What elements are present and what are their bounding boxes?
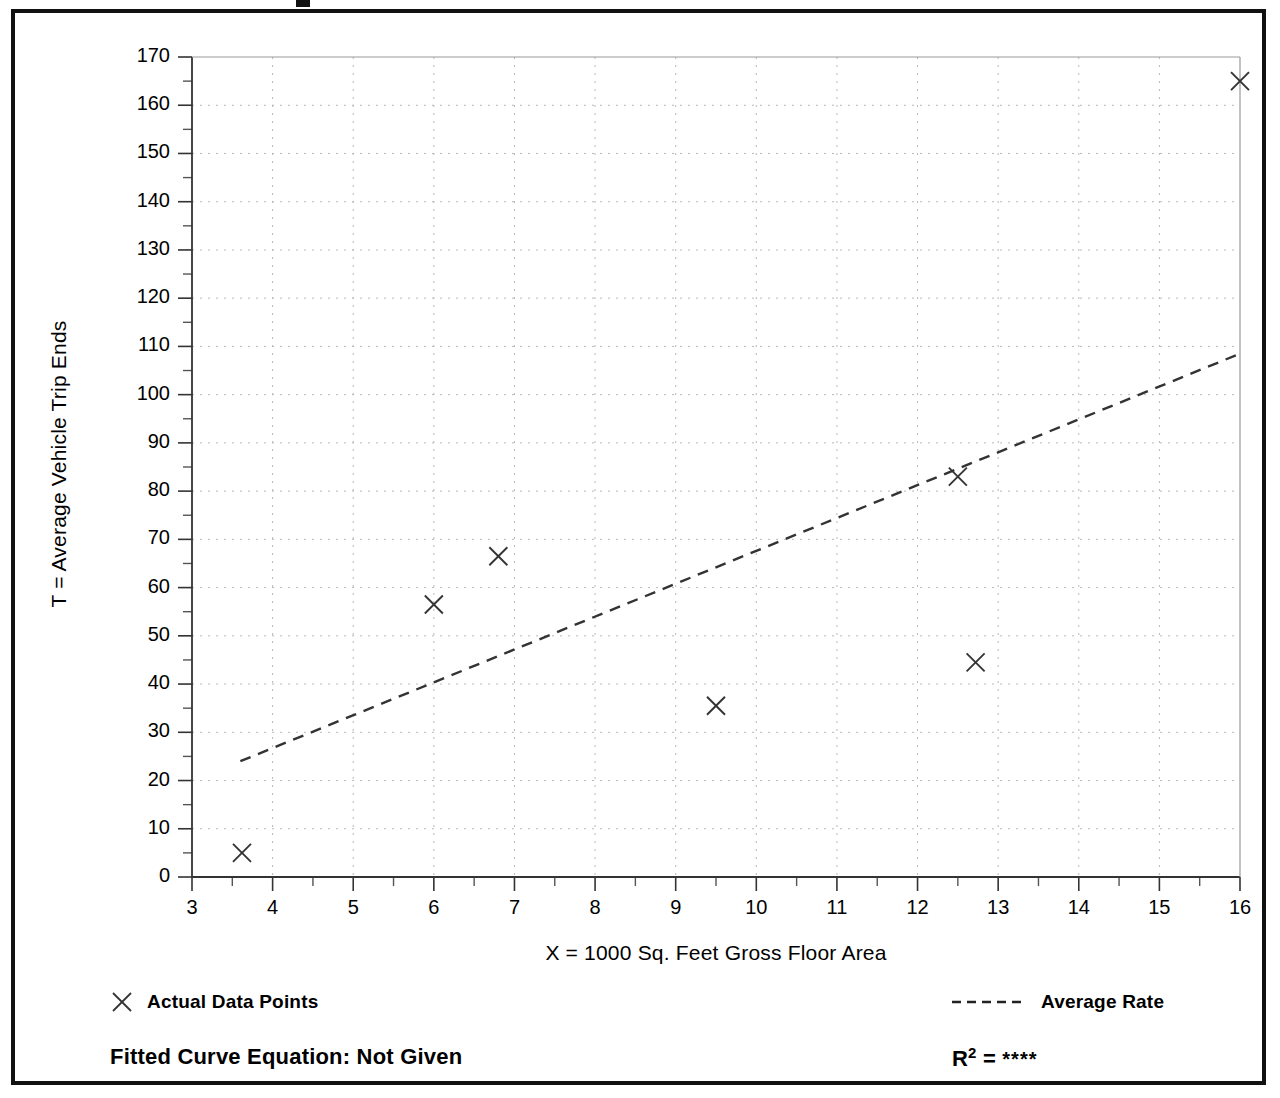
x-tick-label: 7 xyxy=(492,896,536,919)
y-tick-label: 30 xyxy=(110,719,170,742)
gridlines xyxy=(192,57,1240,877)
x-tick-label: 5 xyxy=(331,896,375,919)
major-ticks xyxy=(178,57,1240,891)
y-tick-label: 130 xyxy=(110,237,170,260)
legend-label-average-rate: Average Rate xyxy=(1041,991,1164,1013)
average-rate-trend-line xyxy=(240,354,1240,762)
x-tick-label: 9 xyxy=(654,896,698,919)
y-tick-label: 120 xyxy=(110,285,170,308)
r-squared-equals: = xyxy=(977,1046,1003,1071)
data-point-markers xyxy=(233,72,1249,862)
x-tick-label: 3 xyxy=(170,896,214,919)
x-tick-label: 6 xyxy=(412,896,456,919)
x-tick-label: 13 xyxy=(976,896,1020,919)
legend-label-actual-data-points: Actual Data Points xyxy=(147,991,318,1013)
y-tick-label: 60 xyxy=(110,575,170,598)
y-tick-label: 20 xyxy=(110,768,170,791)
axis-lines xyxy=(192,57,1240,877)
dashed-line-icon xyxy=(952,1000,1026,1004)
y-tick-label: 170 xyxy=(110,44,170,67)
fitted-curve-equation: Fitted Curve Equation: Not Given xyxy=(110,1044,462,1070)
minor-ticks xyxy=(183,81,1200,886)
x-tick-label: 15 xyxy=(1137,896,1181,919)
y-tick-label: 160 xyxy=(110,92,170,115)
y-tick-label: 140 xyxy=(110,189,170,212)
x-marker-icon xyxy=(110,990,134,1014)
y-tick-label: 150 xyxy=(110,140,170,163)
y-tick-label: 90 xyxy=(110,430,170,453)
y-tick-label: 10 xyxy=(110,816,170,839)
r-squared-exponent: 2 xyxy=(968,1044,977,1061)
y-tick-label: 40 xyxy=(110,671,170,694)
x-tick-label: 8 xyxy=(573,896,617,919)
plot-canvas xyxy=(0,0,1280,1098)
x-axis-title: X = 1000 Sq. Feet Gross Floor Area xyxy=(192,941,1240,965)
x-tick-label: 10 xyxy=(734,896,778,919)
y-tick-label: 110 xyxy=(110,333,170,356)
x-tick-label: 16 xyxy=(1218,896,1262,919)
x-tick-label: 12 xyxy=(896,896,940,919)
x-tick-label: 11 xyxy=(815,896,859,919)
y-tick-label: 70 xyxy=(110,526,170,549)
x-tick-label: 4 xyxy=(251,896,295,919)
scatter-chart: T = Average Vehicle Trip Ends X = 1000 S… xyxy=(0,0,1280,1098)
y-tick-label: 100 xyxy=(110,382,170,405)
y-tick-label: 0 xyxy=(110,864,170,887)
r-squared-value: R2 = **** xyxy=(952,1044,1037,1072)
r-squared-prefix: R xyxy=(952,1046,968,1071)
y-tick-label: 80 xyxy=(110,478,170,501)
r-squared-stars: **** xyxy=(1002,1048,1037,1070)
x-tick-label: 14 xyxy=(1057,896,1101,919)
y-axis-title: T = Average Vehicle Trip Ends xyxy=(47,299,71,629)
y-tick-label: 50 xyxy=(110,623,170,646)
